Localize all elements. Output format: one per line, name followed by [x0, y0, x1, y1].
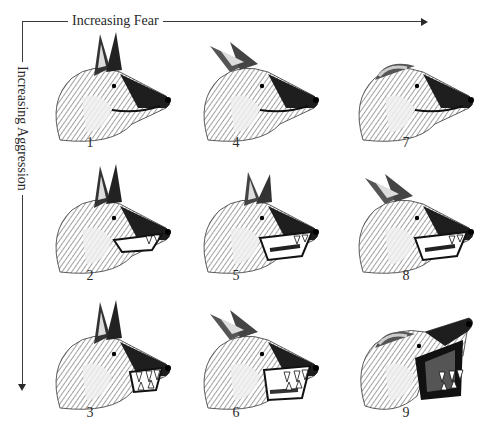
dog-figure-number: 7: [396, 135, 416, 151]
aggression-axis-arrow-icon: [18, 384, 26, 391]
dog-head-illustration-icon: [345, 296, 475, 421]
dog-figure-number: 2: [80, 268, 100, 284]
dog-figure-number: 5: [226, 268, 246, 284]
dog-head-4: [190, 28, 320, 153]
fear-axis-arrow-icon: [421, 18, 428, 26]
dog-figure-number: 9: [396, 405, 416, 421]
dog-figure-number: 8: [396, 268, 416, 284]
dog-head-illustration-icon: [190, 28, 320, 153]
dog-head-illustration-icon: [345, 160, 475, 285]
aggression-axis-label: Increasing Aggression: [13, 62, 31, 195]
dog-head-5: [190, 160, 320, 285]
dog-figure-number: 1: [80, 135, 100, 151]
dog-head-3: [42, 296, 172, 421]
dog-figure-number: 4: [226, 135, 246, 151]
dog-head-6: [190, 296, 320, 421]
dog-head-illustration-icon: [190, 160, 320, 285]
dog-head-illustration-icon: [42, 160, 172, 285]
dog-head-8: [345, 160, 475, 285]
dog-head-illustration-icon: [42, 296, 172, 421]
dog-head-illustration-icon: [42, 28, 172, 153]
dog-head-2: [42, 160, 172, 285]
dog-head-1: [42, 28, 172, 153]
dog-figure-number: 3: [80, 405, 100, 421]
dog-head-illustration-icon: [190, 296, 320, 421]
dog-head-9: [345, 296, 475, 421]
dog-figure-number: 6: [226, 405, 246, 421]
